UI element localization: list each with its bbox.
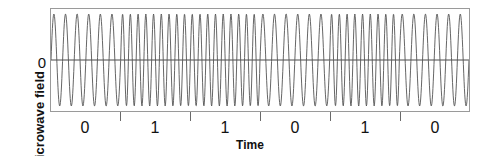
x-axis-tick-label-1: 1	[135, 117, 175, 139]
x-axis-tick-2	[190, 112, 191, 121]
x-axis-tick-4	[330, 112, 331, 121]
x-axis-tick-label-4: 1	[345, 117, 385, 139]
plot-area	[50, 8, 470, 112]
x-axis-tick-label-5: 0	[415, 117, 455, 139]
x-axis-title: Time	[200, 136, 300, 154]
x-axis-tick-label-0: 0	[65, 117, 105, 139]
x-axis-tick-5	[400, 112, 401, 121]
x-axis-tick-3	[260, 112, 261, 121]
waveform-plot	[51, 9, 469, 111]
microwave-field-figure: Microwave field 0 0 1 1 0 1 0 Time	[0, 0, 487, 156]
x-axis-tick-1	[120, 112, 121, 121]
y-axis-tick-label-zero: 0	[32, 53, 46, 73]
